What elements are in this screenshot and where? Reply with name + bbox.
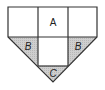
label-b-left: B (25, 41, 32, 52)
label-b-right: B (75, 41, 82, 52)
label-c: C (49, 68, 57, 79)
geometric-diagram: A B B C (0, 0, 105, 90)
label-a: A (50, 17, 57, 28)
